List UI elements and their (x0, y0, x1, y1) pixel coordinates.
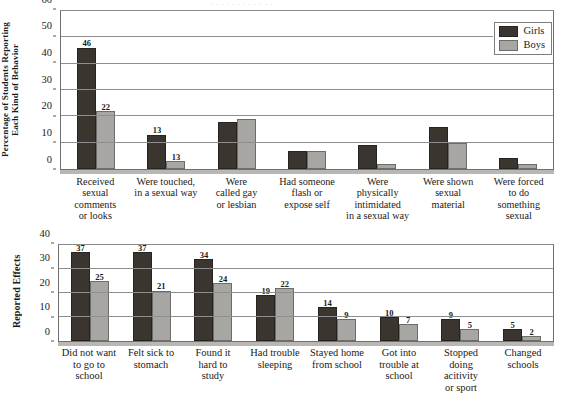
bar-group: 3725 (59, 245, 121, 341)
bar-value-label: 5 (468, 321, 472, 330)
bar-boys: 13 (166, 161, 185, 169)
y-tick-mark (53, 89, 56, 90)
bar-value-label: 13 (153, 126, 162, 135)
bar-group (412, 11, 482, 169)
bar-group: 1922 (244, 245, 306, 341)
x-axis-category-label: Were touched,in a sexual way (131, 176, 202, 222)
bar-boys: 2 (522, 336, 541, 341)
bar-group: 107 (368, 245, 430, 341)
bar-girls: 10 (380, 317, 399, 341)
gridline (61, 63, 553, 64)
bar-boys: 7 (399, 324, 418, 341)
bar-girls: 37 (133, 252, 152, 341)
y-axis-title-top-line1: Percentage of Students Reporting (0, 23, 10, 158)
y-axis-top: 0102030405060 (34, 10, 56, 170)
bar-value-label: 2 (530, 328, 534, 337)
bar-girls: 46 (77, 48, 96, 169)
bar-girls (288, 151, 307, 169)
bar-boys: 9 (337, 319, 356, 341)
bar-value-label: 24 (219, 275, 228, 284)
x-axis-labels-top: Receivedsexualcommentsor looksWere touch… (60, 176, 554, 222)
x-axis-category-label: Got intotrouble atschool (368, 347, 430, 394)
bar-value-label: 5 (511, 321, 515, 330)
gridline (61, 36, 553, 37)
bar-girls: 14 (318, 307, 337, 341)
bar-value-label: 37 (138, 244, 147, 253)
plot-area-wrapper-bottom: 010203040 37253721342419221491079552 (32, 244, 554, 342)
y-tick-label: 0 (47, 154, 52, 165)
legend-swatch-girls-icon (499, 26, 518, 37)
gridline (59, 292, 553, 293)
x-axis-category-label: Werephysicallyintimidatedin a sexual way (342, 176, 413, 222)
x-axis-category-label: Changedschools (492, 347, 554, 394)
y-tick-label: 60 (42, 0, 53, 5)
x-axis-category-label: Had someoneflash orexpose self (272, 176, 343, 222)
bar-boys (518, 164, 537, 169)
bar-boys: 22 (96, 111, 115, 169)
bar-group: 95 (430, 245, 492, 341)
bar-girls (358, 145, 377, 169)
bar-group (202, 11, 272, 169)
bar-girls: 37 (71, 252, 90, 341)
legend: Girls Boys (494, 22, 552, 55)
plot-top: 46221313 (60, 10, 554, 170)
gridline (59, 268, 553, 269)
x-axis-category-label: Felt sick tostomach (120, 347, 182, 394)
bar-group: 149 (306, 245, 368, 341)
bar-girls (218, 122, 237, 169)
bar-value-label: 34 (200, 251, 209, 260)
y-tick-label: 20 (40, 277, 51, 288)
bar-girls: 5 (503, 329, 522, 341)
bar-group: 1313 (131, 11, 201, 169)
x-axis-category-label: Had troublesleeping (244, 347, 306, 394)
y-axis-title-top: Percentage of Students Reporting Each Ki… (1, 10, 27, 170)
bar-boys: 22 (275, 288, 294, 341)
y-tick-mark (51, 243, 54, 244)
y-tick-mark (53, 169, 56, 170)
bar-groups-bottom: 37253721342419221491079552 (59, 245, 553, 341)
y-tick-mark (51, 267, 54, 268)
y-tick-label: 40 (40, 228, 51, 239)
baseline-shadow-top (60, 170, 554, 174)
y-axis-title-top-line2: Each Kind of Behavior (10, 44, 20, 136)
chart-reported-effects: Reported Effects 010203040 3725372134241… (0, 240, 564, 409)
x-axis-labels-bottom: Did not wantto go toschoolFelt sick tost… (58, 347, 554, 394)
bar-value-label: 22 (101, 103, 110, 112)
y-tick-mark (53, 142, 56, 143)
bar-value-label: 37 (76, 244, 85, 253)
baseline-shadow-bottom (58, 342, 554, 346)
bar-group (342, 11, 412, 169)
bar-boys: 5 (460, 329, 479, 341)
y-axis-title-bottom: Reported Effects (12, 248, 26, 334)
y-tick-label: 50 (42, 21, 53, 32)
y-tick-mark (51, 341, 54, 342)
y-tick-label: 30 (40, 253, 51, 264)
y-tick-mark (51, 316, 54, 317)
bar-girls (429, 127, 448, 169)
bar-group (272, 11, 342, 169)
x-axis-category-label: Receivedsexualcommentsor looks (60, 176, 131, 222)
y-tick-label: 0 (45, 326, 50, 337)
bar-value-label: 46 (82, 39, 91, 48)
y-tick-label: 20 (42, 101, 53, 112)
y-tick-label: 40 (42, 48, 53, 59)
bar-boys (307, 151, 326, 169)
y-tick-label: 10 (42, 128, 53, 139)
bar-girls: 34 (194, 259, 213, 341)
legend-label-boys: Boys (523, 40, 545, 51)
gridline (61, 115, 553, 116)
gridline (59, 316, 553, 317)
legend-label-girls: Girls (523, 26, 544, 37)
bar-groups-top: 46221313 (61, 11, 553, 169)
bar-group: 4622 (61, 11, 131, 169)
bar-boys: 25 (90, 281, 109, 341)
legend-item-boys: Boys (499, 40, 545, 51)
plot-bottom: 37253721342419221491079552 (58, 244, 554, 342)
bar-group: 3721 (121, 245, 183, 341)
gridline (61, 89, 553, 90)
x-axis-category-label: Were shownsexualmaterial (413, 176, 484, 222)
x-axis-category-label: Did not wantto go toschool (58, 347, 120, 394)
legend-item-girls: Girls (499, 26, 545, 37)
x-axis-category-label: Stoppeddoingacitivityor sport (430, 347, 492, 394)
bar-value-label: 22 (280, 280, 289, 289)
